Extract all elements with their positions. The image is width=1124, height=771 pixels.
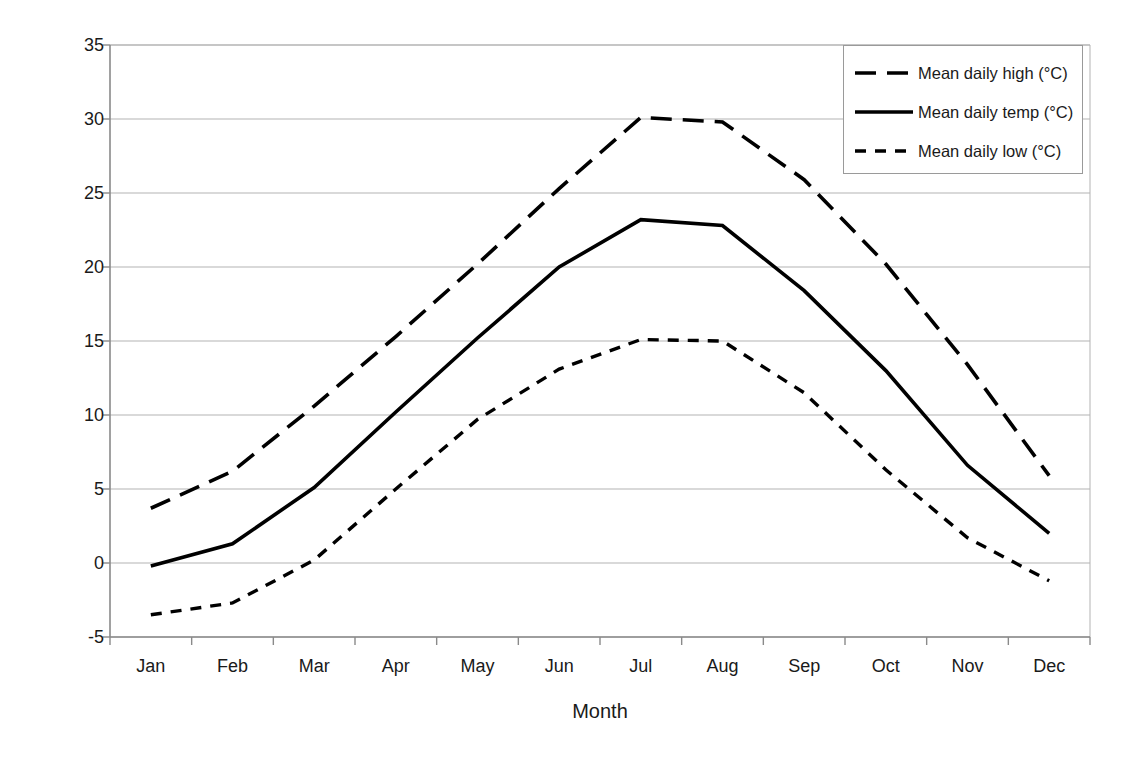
temperature-line-chart: Temperature (degrees C) 35302520151050-5… [0, 0, 1124, 771]
legend-swatch-long-dash-icon [853, 66, 915, 80]
y-tick-label: 5 [58, 480, 104, 498]
x-axis-title: Month [110, 700, 1090, 723]
y-axis-tick-labels: 35302520151050-5 [48, 0, 104, 640]
legend-item[interactable]: Mean daily low (°C) [853, 136, 1077, 166]
x-tick-label: Oct [841, 656, 931, 677]
x-tick-label: Jun [514, 656, 604, 677]
x-tick-label: Jul [596, 656, 686, 677]
x-tick-label: Dec [1004, 656, 1094, 677]
y-tick-label: 30 [58, 110, 104, 128]
legend-label: Mean daily low (°C) [918, 142, 1061, 161]
y-tick-label: 10 [58, 406, 104, 424]
series-line [151, 340, 1049, 615]
series-line [151, 220, 1049, 566]
legend-item[interactable]: Mean daily high (°C) [853, 58, 1077, 88]
x-tick-label: Apr [351, 656, 441, 677]
x-tick-label: Aug [678, 656, 768, 677]
series-line [151, 118, 1049, 509]
y-tick-label: -5 [58, 628, 104, 646]
legend-label: Mean daily high (°C) [918, 64, 1068, 83]
legend-swatch-short-dash-icon [853, 144, 915, 158]
x-tick-label: Jan [106, 656, 196, 677]
x-tick-label: Feb [188, 656, 278, 677]
y-tick-label: 25 [58, 184, 104, 202]
x-tick-label: May [433, 656, 523, 677]
y-tick-label: 35 [58, 36, 104, 54]
y-tick-label: 15 [58, 332, 104, 350]
legend-label: Mean daily temp (°C) [918, 103, 1073, 122]
x-tick-label: Sep [759, 656, 849, 677]
y-tick-label: 0 [58, 554, 104, 572]
x-tick-label: Nov [923, 656, 1013, 677]
legend-item[interactable]: Mean daily temp (°C) [853, 97, 1077, 127]
x-tick-label: Mar [269, 656, 359, 677]
y-tick-label: 20 [58, 258, 104, 276]
legend-swatch-solid-icon [853, 105, 915, 119]
chart-legend: Mean daily high (°C)Mean daily temp (°C)… [843, 45, 1083, 174]
